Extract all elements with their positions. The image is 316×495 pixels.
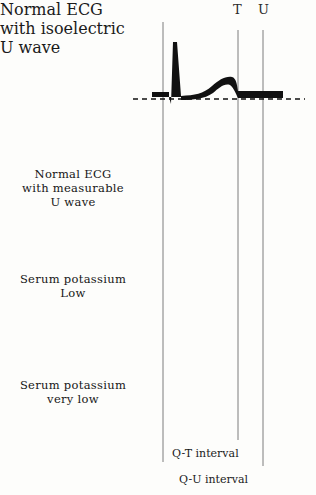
ecg-u-wave-figure — [0, 0, 316, 495]
row-3-label-line-2: Low — [0, 286, 148, 300]
row-2-label-line-2: with measurable — [0, 181, 148, 195]
u-marker-label: U — [258, 2, 269, 17]
u-marker: U — [258, 2, 269, 17]
row-3-label-line-1: Serum potassium — [0, 272, 148, 286]
p-wave-row-1 — [152, 92, 169, 97]
row-3-label: Serum potassium Low — [0, 272, 148, 300]
row-4-label-line-1: Serum potassium — [0, 378, 148, 392]
t-wave-row-1 — [181, 77, 283, 100]
row-4-label-line-2: very low — [0, 392, 148, 406]
qu-interval-label: Q-U interval — [179, 473, 248, 486]
row-4-label: Serum potassium very low — [0, 378, 148, 406]
t-marker-label: T — [233, 2, 242, 17]
ecg-trace-row-1 — [133, 42, 305, 104]
qrs-complex-row-1 — [169, 42, 186, 104]
qt-interval-label: Q-T interval — [172, 447, 239, 460]
t-marker: T — [233, 2, 242, 17]
row-2-label-line-3: U wave — [0, 195, 148, 209]
row-2-label-line-1: Normal ECG — [0, 167, 148, 181]
row-2-label: Normal ECG with measurable U wave — [0, 167, 148, 209]
